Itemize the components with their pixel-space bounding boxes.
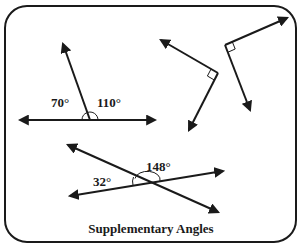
angle-label-110: 110° (97, 95, 121, 110)
arm-down-right (225, 45, 250, 110)
figure-intersecting-lines: 32° 148° (68, 145, 223, 212)
line-descending (68, 145, 218, 212)
arm-upper-right (225, 18, 287, 45)
arm-down-left (189, 73, 218, 130)
figure-right-angle-2 (225, 18, 287, 110)
angle-label-32: 32° (93, 174, 111, 189)
diagram-title: Supplementary Angles (88, 221, 213, 236)
figure-linear-pair: 70° 110° (20, 44, 155, 120)
figure-right-angle-1 (161, 40, 218, 130)
diagram-canvas: 70° 110° 32° 148° Supplementary Angles (0, 0, 301, 247)
arm-upper-left (161, 40, 218, 73)
angle-label-70: 70° (51, 95, 69, 110)
diagram-border (5, 6, 296, 242)
angle-label-148: 148° (146, 159, 171, 174)
angle-arc-left (82, 113, 87, 121)
angle-arc-32 (133, 177, 134, 185)
